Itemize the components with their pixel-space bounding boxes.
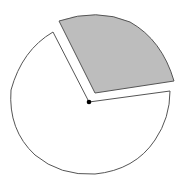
center-point-dot: [87, 100, 92, 105]
pie-diagram: [0, 0, 181, 184]
